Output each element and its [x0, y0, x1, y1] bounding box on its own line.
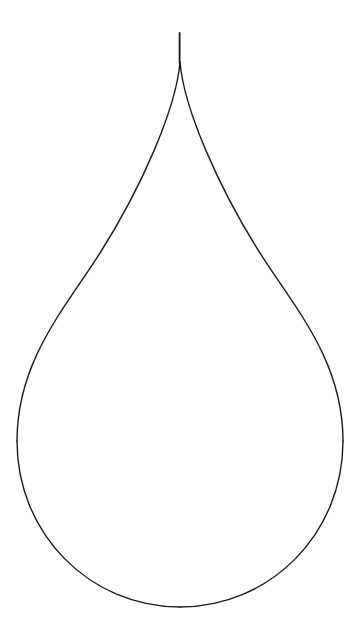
canvas-background — [0, 0, 360, 632]
drawing-canvas — [0, 0, 360, 632]
teardrop-illustration — [0, 0, 360, 632]
